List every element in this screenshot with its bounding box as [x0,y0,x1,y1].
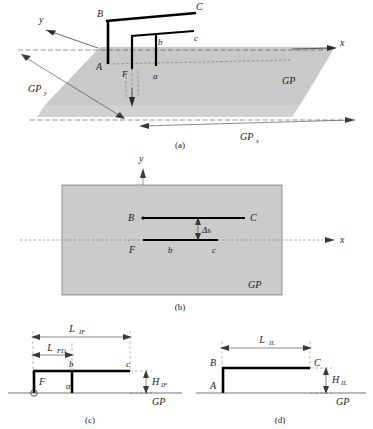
panel-c-height-arrow-up [143,370,149,378]
panel-c-length-feed-arrow-right [65,352,74,358]
y-axis-arrowhead [46,30,56,36]
panel-d-point-C-label: C [314,357,321,368]
panel-c-height-subscript: IF [160,381,168,388]
panel-d-length-arrow-right [303,345,312,351]
panel-d-length-label: L [258,334,265,345]
panel-c-height-label: H [151,376,160,387]
panel-b-caption: (b) [175,302,186,312]
panel-d-height-label: H [331,374,340,385]
panel-d-inverted-l-elevation: L IL B A C H IL GP (d) [190,313,373,429]
panel-d-point-A-label: A [209,380,217,391]
panel-c-length-feed-arrow-left [31,352,40,358]
panel-a-y-axis-label: y [38,14,44,25]
panel-a-point-b-label: b [158,37,163,47]
panel-b-y-axis-label: y [138,153,144,164]
panel-c-point-a-label: a [66,381,71,391]
panel-b-point-B-marker [141,216,144,219]
inverted-f-horizontal-segment-bc [131,31,194,36]
panel-d-ground-plane-label: GP [336,396,349,407]
gp-x-arrowhead-end [345,117,355,123]
panel-a-point-F-label: F [121,69,128,79]
panel-a-point-A-label: A [95,61,103,72]
panel-d-length-subscript: IL [268,339,275,346]
panel-c-caption: (c) [85,415,95,425]
panel-c-length-total-label: L [68,323,75,334]
panel-d-caption: (d) [275,415,286,425]
panel-a-gp-y-subscript: y [43,89,47,96]
panel-c-ground-plane-label: GP [152,396,165,407]
panel-b-ground-plane-label: GP [248,279,261,290]
panel-a-gp-y-label: GP [28,83,41,94]
panel-d-length-arrow-left [220,345,229,351]
panel-a-point-a-label: a [153,71,158,81]
panel-c-inverted-f-elevation: L IF L FD F a b c H IF GP (c) [0,313,190,429]
panel-a-perspective-view: y x A B C F a b c GP GP y GP x (a) [0,0,373,150]
panel-c-length-total-arrow-left [31,334,40,340]
panel-a-point-c-label: c [194,33,198,43]
panel-c-point-F-label: F [38,376,46,387]
panel-b-point-B-label: B [128,212,134,223]
panel-d-height-arrow-up [323,367,329,375]
panel-c-point-b-label: b [69,359,74,369]
panel-a-gp-x-label: GP [240,131,253,142]
panel-a-ground-plane-label: GP [282,75,295,86]
panel-c-point-c-label: c [126,359,130,369]
panel-d-point-B-label: B [210,357,216,368]
panel-b-delta-s-label: Δs [201,225,211,235]
gp-x-arrowhead-start [139,123,149,129]
panel-a-gp-x-subscript: x [255,137,259,144]
panel-a-point-B-label: B [97,8,103,19]
panel-b-point-C-label: C [250,212,257,223]
panel-d-height-subscript: IL [340,379,347,386]
panel-b-x-axis-label: x [339,234,345,245]
panel-c-length-total-subscript: IF [78,328,86,335]
panel-b-x-axis-arrowhead [325,237,335,243]
antenna-geometry-figure: y x A B C F a b c GP GP y GP x (a) y x [0,0,373,429]
panel-a-x-axis-label: x [339,37,345,48]
panel-b-y-axis-arrowhead [140,168,146,178]
ground-plane-edge-face [37,105,300,117]
panel-b-point-c-label: c [212,245,216,255]
panel-b-point-b-label: b [168,245,173,255]
panel-a-point-C-label: C [196,1,203,12]
panel-c-length-feed-subscript: FD [56,347,66,354]
panel-c-length-feed-label: L [46,342,53,353]
panel-c-length-total-arrow-right [123,334,132,340]
gp-x-dimension-line [142,120,352,126]
inverted-l-horizontal-segment-BC [106,13,196,21]
panel-b-point-F-label: F [128,244,136,255]
panel-b-top-view: y x B C F b c Δs GP (b) [0,148,373,313]
